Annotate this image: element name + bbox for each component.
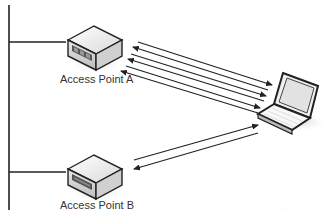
laptop-icon: [258, 73, 328, 134]
links-ap-a: [121, 42, 272, 113]
links-ap-b: [134, 125, 258, 169]
access-point-b-label: Access Point B: [60, 199, 134, 211]
watermark: · · ·: [282, 206, 291, 212]
network-diagram: [0, 0, 331, 214]
access-point-b-icon: [66, 155, 126, 203]
access-point-a-icon: [66, 26, 126, 74]
wired-backbone: [9, 5, 66, 210]
access-point-a-label: Access Point A: [60, 73, 133, 85]
